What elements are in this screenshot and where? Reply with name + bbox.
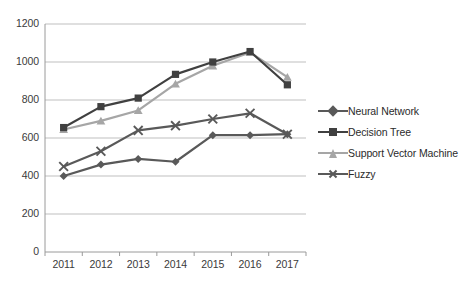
legend-item-support-vector-machine[interactable]: Support Vector Machine [318, 146, 458, 160]
y-axis-tick-label: 800 [0, 93, 39, 105]
y-axis-tick-label: 400 [0, 169, 39, 181]
data-point-marker [60, 124, 67, 131]
legend-label: Neural Network [348, 105, 419, 117]
y-axis-tick-label: 200 [0, 207, 39, 219]
line-chart: Neural NetworkDecision TreeSupport Vecto… [0, 0, 461, 286]
legend-item-neural-network[interactable]: Neural Network [318, 104, 458, 118]
x-axis-tick-label: 2015 [193, 258, 233, 270]
x-axis-tick-label: 2012 [81, 258, 121, 270]
legend-item-fuzzy[interactable]: Fuzzy [318, 167, 458, 181]
data-point-marker [284, 81, 291, 88]
legend-label: Decision Tree [348, 126, 411, 138]
x-axis-tick-label: 2017 [267, 258, 307, 270]
y-axis-tick-label: 1000 [0, 55, 39, 67]
x-axis-tick-label: 2014 [156, 258, 196, 270]
x-axis-tick-label: 2013 [118, 258, 158, 270]
legend-key-diamond-icon [318, 105, 348, 117]
legend-marker-square-icon [329, 128, 337, 136]
legend-item-decision-tree[interactable]: Decision Tree [318, 125, 458, 139]
data-point-marker [246, 48, 253, 55]
chart-legend: Neural NetworkDecision TreeSupport Vecto… [318, 104, 458, 181]
x-axis-tick-label: 2016 [230, 258, 270, 270]
legend-label: Support Vector Machine [348, 147, 458, 159]
y-axis-tick-label: 1200 [0, 17, 39, 29]
legend-label: Fuzzy [348, 168, 376, 180]
legend-key-square-icon [318, 126, 348, 138]
legend-key-cross-icon [318, 168, 348, 180]
legend-marker-diamond-icon [327, 105, 338, 116]
legend-marker-triangle-icon [329, 149, 337, 158]
data-point-marker [97, 103, 104, 110]
y-axis-tick-label: 600 [0, 131, 39, 143]
legend-marker-cross-icon [329, 170, 337, 178]
data-point-marker [209, 58, 216, 65]
legend-key-triangle-icon [318, 147, 348, 159]
data-point-marker [135, 95, 142, 102]
data-point-marker [172, 71, 179, 78]
y-axis-tick-label: 0 [0, 245, 39, 257]
x-axis-tick-label: 2011 [44, 258, 84, 270]
